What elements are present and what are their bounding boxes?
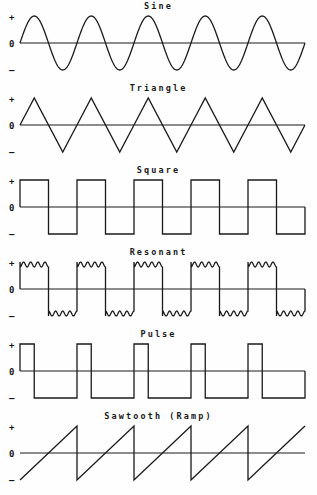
waveform-panel-resonant: Resonant+0– <box>0 246 317 328</box>
waveform-panel-triangle: Triangle+0– <box>0 82 317 164</box>
waveform-plot-resonant <box>0 246 317 328</box>
waveform-panel-sawtooth: Sawtooth (Ramp)+0– <box>0 410 317 492</box>
waveform-plot-triangle <box>0 82 317 164</box>
waveform-plot-sawtooth <box>0 410 317 492</box>
waveform-plot-sine <box>0 0 317 82</box>
waveform-plot-square <box>0 164 317 246</box>
waveform-figure: Sine+0–Triangle+0–Square+0–Resonant+0–Pu… <box>0 0 317 495</box>
waveform-panel-sine: Sine+0– <box>0 0 317 82</box>
waveform-panel-square: Square+0– <box>0 164 317 246</box>
waveform-panel-pulse: Pulse+0– <box>0 328 317 410</box>
waveform-plot-pulse <box>0 328 317 410</box>
